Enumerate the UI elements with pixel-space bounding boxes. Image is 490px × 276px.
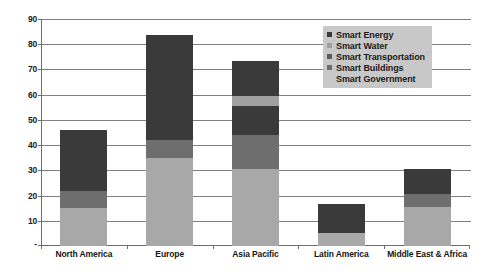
bar-segment[interactable] bbox=[404, 182, 451, 195]
bar-group[interactable] bbox=[146, 19, 193, 246]
x-tick-mark bbox=[41, 245, 42, 249]
bar-group[interactable] bbox=[60, 19, 107, 246]
x-tick-mark bbox=[127, 245, 128, 249]
x-axis: North AmericaEuropeAsia PacificLatin Ame… bbox=[41, 249, 470, 269]
x-tick-label: Europe bbox=[127, 249, 213, 259]
bar-segment[interactable] bbox=[146, 140, 193, 158]
legend-item[interactable]: Smart Government bbox=[327, 73, 425, 84]
bar-segment[interactable] bbox=[404, 207, 451, 246]
y-tick-label: 40 bbox=[7, 141, 37, 149]
bar-segment[interactable] bbox=[146, 158, 193, 246]
bar-segment[interactable] bbox=[232, 135, 279, 169]
y-tick-label: 80 bbox=[7, 40, 37, 48]
bar-segment[interactable] bbox=[60, 191, 107, 209]
legend-item[interactable]: Smart Buildings bbox=[327, 62, 425, 73]
bar-stack bbox=[232, 61, 279, 246]
legend-label: Smart Energy bbox=[336, 30, 393, 40]
bar-segment[interactable] bbox=[232, 106, 279, 135]
y-tick-label: 10 bbox=[7, 217, 37, 225]
x-tick-mark bbox=[298, 245, 299, 249]
bar-group[interactable] bbox=[232, 19, 279, 246]
bar-segment[interactable] bbox=[60, 130, 107, 178]
bar-segment[interactable] bbox=[318, 204, 365, 233]
y-tick-label: 30 bbox=[7, 166, 37, 174]
legend-label: Smart Buildings bbox=[336, 63, 404, 73]
chart-legend: Smart EnergySmart WaterSmart Transportat… bbox=[323, 26, 432, 88]
bar-segment[interactable] bbox=[232, 61, 279, 96]
legend-item[interactable]: Smart Energy bbox=[327, 29, 425, 40]
legend-swatch-icon bbox=[327, 32, 332, 37]
x-tick-label: North America bbox=[41, 249, 127, 259]
bar-stack bbox=[146, 35, 193, 246]
legend-item[interactable]: Smart Transportation bbox=[327, 51, 425, 62]
y-tick-label: 60 bbox=[7, 91, 37, 99]
bar-stack bbox=[318, 204, 365, 246]
bar-segment[interactable] bbox=[60, 208, 107, 246]
legend-label: Smart Water bbox=[336, 41, 388, 51]
bar-segment[interactable] bbox=[404, 169, 451, 182]
x-tick-mark bbox=[469, 245, 470, 249]
legend-swatch-icon bbox=[327, 54, 332, 59]
legend-swatch-icon bbox=[327, 43, 332, 48]
legend-swatch-icon bbox=[327, 76, 332, 81]
x-tick-label: Asia Pacific bbox=[213, 249, 299, 259]
legend-label: Smart Government bbox=[336, 74, 415, 84]
stacked-bar-chart: 90 80 70 60 50 40 30 20 10 - North Ameri… bbox=[0, 0, 490, 276]
bar-segment[interactable] bbox=[232, 96, 279, 106]
y-tick-label: 20 bbox=[7, 192, 37, 200]
bar-stack bbox=[60, 130, 107, 246]
legend-swatch-icon bbox=[327, 65, 332, 70]
legend-item[interactable]: Smart Water bbox=[327, 40, 425, 51]
y-tick-label: - bbox=[7, 240, 37, 248]
bar-segment[interactable] bbox=[232, 169, 279, 246]
x-tick-mark bbox=[384, 245, 385, 249]
x-tick-mark bbox=[213, 245, 214, 249]
bar-segment[interactable] bbox=[404, 194, 451, 207]
x-tick-label: Latin America bbox=[298, 249, 384, 259]
y-axis: 90 80 70 60 50 40 30 20 10 - bbox=[0, 19, 37, 246]
bar-segment[interactable] bbox=[146, 95, 193, 140]
bar-stack bbox=[404, 169, 451, 246]
legend-label: Smart Transportation bbox=[336, 52, 425, 62]
bar-segment[interactable] bbox=[146, 35, 193, 94]
x-tick-label: Middle East & Africa bbox=[384, 249, 470, 259]
bar-segment[interactable] bbox=[60, 178, 107, 191]
y-tick-label: 50 bbox=[7, 116, 37, 124]
y-tick-label: 90 bbox=[7, 15, 37, 23]
bar-segment[interactable] bbox=[318, 233, 365, 246]
y-tick-label: 70 bbox=[7, 65, 37, 73]
